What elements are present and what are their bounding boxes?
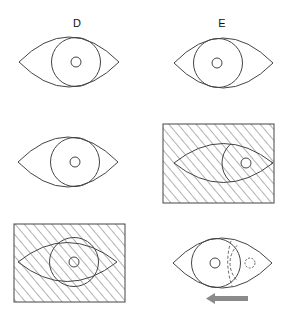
column-label-d: D bbox=[73, 17, 81, 29]
eye-diagram: D E bbox=[0, 0, 289, 315]
eye-e-row1 bbox=[174, 38, 273, 88]
eye-d-row1 bbox=[19, 37, 119, 87]
column-label-e: E bbox=[218, 17, 225, 29]
eye-d-row3-hatched bbox=[14, 224, 125, 302]
arrow-left-icon bbox=[206, 293, 248, 304]
eye-e-row2-hatched bbox=[163, 124, 274, 203]
eye-e-row3-movement bbox=[173, 238, 280, 288]
eye-d-row2 bbox=[18, 137, 118, 187]
